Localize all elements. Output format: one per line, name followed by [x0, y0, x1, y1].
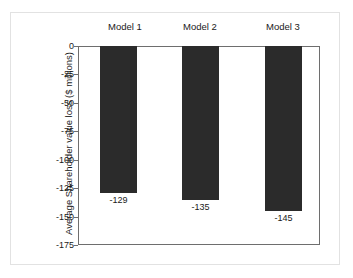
y-tick-label-7: -175	[42, 240, 74, 250]
y-tick-label-4: -100	[42, 155, 74, 165]
y-tick-mark-7	[74, 245, 78, 246]
figure-container: Average Shareholder value loss ($ millio…	[0, 0, 353, 278]
bar-value-label-model-1: -129	[97, 195, 141, 205]
bar-model-1[interactable]	[100, 46, 137, 193]
y-tick-label-1: -25	[42, 69, 74, 79]
y-tick-label-3: -75	[42, 126, 74, 136]
bar-value-label-model-2: -135	[179, 202, 223, 212]
y-tick-label-5: -125	[42, 183, 74, 193]
category-label-model-3: Model 3	[253, 21, 313, 32]
y-tick-label-0: 0	[42, 41, 74, 51]
category-label-model-1: Model 1	[95, 21, 155, 32]
bar-model-2[interactable]	[182, 46, 219, 200]
y-tick-label-6: -150	[42, 212, 74, 222]
bar-value-label-model-3: -145	[262, 213, 306, 223]
y-tick-label-2: -50	[42, 98, 74, 108]
category-label-model-2: Model 2	[170, 21, 230, 32]
bar-model-3[interactable]	[265, 46, 302, 211]
